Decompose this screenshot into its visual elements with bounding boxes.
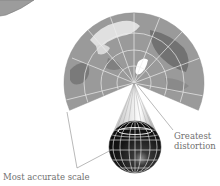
globe	[105, 121, 165, 173]
most-accurate-scale-label: Most accurate scale	[3, 172, 90, 182]
conic-projection-diagram	[0, 0, 220, 186]
adjacent-figure-fragment	[0, 0, 34, 16]
greatest-distortion-line2: distortion	[174, 141, 216, 151]
greatest-distortion-line1: Greatest	[174, 131, 216, 141]
most-accurate-scale-leader	[67, 112, 113, 168]
greatest-distortion-label: Greatest distortion	[174, 131, 216, 151]
